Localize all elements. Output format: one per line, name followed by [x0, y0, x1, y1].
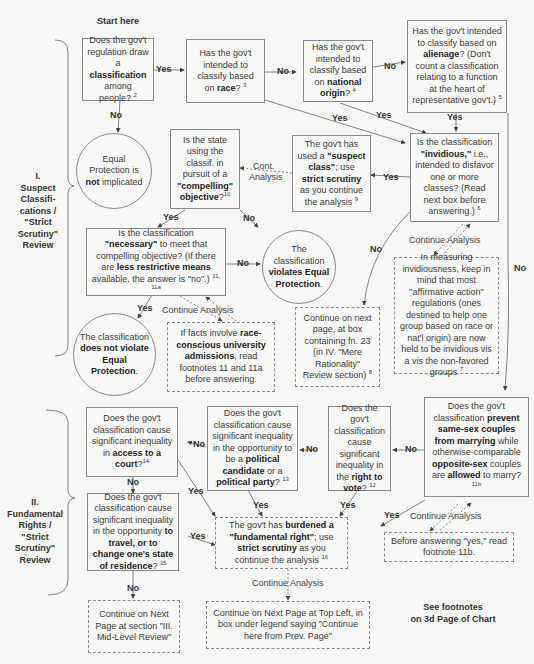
section-line: Rights / [2, 520, 68, 532]
node-national-origin[interactable]: Has the gov't intended to classify based… [303, 40, 373, 102]
section-line: "Strict [8, 217, 68, 229]
node-before-answering-yes[interactable]: Before answering "yes," read footnote 11… [384, 532, 514, 562]
edge-no: No [127, 583, 139, 593]
edge-yes: Yes [376, 110, 392, 120]
edge-no: No [243, 213, 255, 223]
edge-no: No [237, 258, 249, 268]
node-political-candidate[interactable]: Does the gov't classification cause sign… [207, 406, 298, 491]
cont-text: Analysis [249, 172, 283, 182]
edge-yes: Yes [340, 500, 356, 510]
node-fundamental-right-burdened[interactable]: The gov't has burdened a "fundamental ri… [215, 517, 348, 569]
section-line: Fundamental [2, 509, 68, 521]
cont-text: Cont. [253, 161, 275, 171]
node-alienage[interactable]: Has the gov't intended to classify based… [407, 20, 507, 113]
edge-yes: Yes [447, 112, 463, 122]
node-compelling-objective[interactable]: Is the state using the classif. in pursu… [170, 129, 240, 209]
edge-continue-analysis: Continue Analysis [409, 235, 481, 245]
section-line: Scrutiny" [2, 543, 68, 555]
section-line: Scrutiny" [8, 229, 68, 241]
node-suspect-class[interactable]: The gov't has used a "suspect class"; us… [292, 135, 371, 212]
edge-yes: Yes [253, 500, 269, 510]
footnote-line: See footnotes [398, 602, 508, 614]
section-line: Review [2, 555, 68, 567]
edge-continue-analysis: Continue Analysis [162, 305, 234, 315]
section-line: Classifi- [8, 194, 68, 206]
edge-cont-analysis: Analysis [249, 172, 283, 182]
section-suspect-classifications: I. Suspect Classifi- cations / "Strict S… [8, 171, 68, 252]
section-line: I. [8, 171, 68, 183]
node-race-conscious-admissions[interactable]: If facts involve race-conscious universi… [167, 322, 275, 392]
node-necessary[interactable]: Is the classification "necessary" to mee… [86, 228, 226, 296]
section-line: II. [2, 497, 68, 509]
edge-no: No [277, 66, 289, 76]
edge-yes: Yes [163, 212, 179, 222]
section-line: cations / [8, 206, 68, 218]
edge-yes: Yes [332, 113, 348, 123]
node-affirmative-action-note[interactable]: In measuring invidiousness, keep in mind… [394, 257, 499, 374]
section-line: Review [8, 240, 68, 252]
edge-yes: Yes [383, 172, 399, 182]
section-line: "Strict [2, 532, 68, 544]
edge-yes: Yes [190, 531, 206, 541]
footnote-note: See footnotes on 3d Page of Chart [398, 602, 508, 625]
node-travel-residence[interactable]: Does the gov't classification cause sign… [87, 493, 179, 571]
edge-no: No [127, 477, 139, 487]
edge-yes: Yes [188, 486, 204, 496]
footnote-line: on 3d Page of Chart [398, 614, 508, 626]
node-draws-classification[interactable]: Does the gov't regulation draw a classif… [82, 38, 154, 101]
node-mere-rationality[interactable]: Continue on next page, at box containing… [295, 307, 380, 387]
edge-yes: Yes [384, 510, 400, 520]
edge-yes: Yes [156, 64, 172, 74]
node-does-not-violate[interactable]: The classification does not violate Equa… [73, 313, 156, 396]
node-mid-level-review[interactable]: Continue on Next Page at section "III. M… [88, 600, 180, 653]
edge-cont-analysis: Cont. [253, 161, 275, 171]
section-line: Suspect [8, 183, 68, 195]
edge-continue-analysis: Continue Analysis [252, 578, 324, 588]
node-next-page-top-left[interactable]: Continue on Next Page at Top Left, in bo… [206, 601, 370, 649]
edge-no: No [110, 110, 122, 120]
node-violates-equal-protection[interactable]: The classification violates Equal Protec… [262, 230, 336, 304]
edge-no: No [405, 444, 417, 454]
node-not-implicated[interactable]: Equal Protection is not implicated [76, 133, 152, 209]
edge-no: No [384, 61, 396, 71]
start-here-label: Start here [97, 16, 139, 26]
edge-no: No [370, 244, 382, 254]
edge-no: No [193, 439, 205, 449]
edge-continue-analysis: Continue Analysis [410, 511, 482, 521]
section-fundamental-rights: II. Fundamental Rights / "Strict Scrutin… [2, 497, 68, 566]
node-race[interactable]: Has the gov't intended to classify based… [186, 39, 265, 103]
edge-no: No [306, 444, 318, 454]
node-invidious[interactable]: Is the classification "invidious," i.e.,… [410, 133, 499, 222]
edge-no: No [514, 263, 526, 273]
node-same-sex-marriage[interactable]: Does the gov't classification prevent sa… [424, 397, 529, 497]
node-access-to-court[interactable]: Does the gov't classification cause sign… [86, 407, 178, 477]
node-right-to-vote[interactable]: Does the gov't classification cause sign… [328, 406, 391, 491]
edge-yes: Yes [137, 303, 153, 313]
